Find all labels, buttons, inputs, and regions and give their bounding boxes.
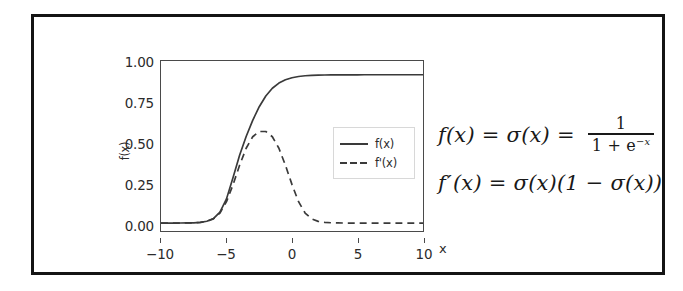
x-axis-ticks: −10 −5 0 5 10 [74,238,404,272]
equation-1-lhs: f(x) [438,123,475,147]
equation-1-equals-first: = [475,123,507,147]
equation-2-lhs-argument: (x) [453,171,482,195]
y-tick-label-0-75: 0.75 [108,97,154,111]
equation-1-denominator-exponent: −x [636,136,650,147]
plot-axes-frame: f(x) f'(x) [160,60,424,232]
equation-1-denominator-base: 1 + e [592,136,636,155]
equation-1-denominator: 1 + e−x [588,135,655,156]
equation-1-fraction: 1 1 + e−x [588,116,655,155]
equation-sigmoid-derivative: f ′ (x) = σ(x)(1 − σ(x)) [438,162,683,204]
equations-block: f(x) = σ(x) = 1 1 + e−x f ′ (x) = σ(x)(1… [438,112,683,204]
x-tick-label-10: 10 [416,248,433,262]
plot-legend: f(x) f'(x) [333,127,415,179]
equation-2-rhs: σ(x)(1 − σ(x)) [514,171,663,195]
x-tick-mark-neg5 [226,238,227,243]
legend-label-fx: f(x) [375,137,394,151]
legend-line-sample-solid [339,139,369,149]
equation-1-sigma: σ(x) [507,123,550,147]
y-tick-label-1-00: 1.00 [108,56,154,70]
x-tick-label-5: 5 [354,248,362,262]
figure-container: f(x) 1.00 0.75 0.50 0.25 0.00 [0,0,683,291]
legend-entry-fprime: f'(x) [339,153,409,172]
x-tick-mark-0 [292,238,293,243]
legend-label-fprime: f'(x) [375,156,397,170]
sigmoid-plot: f(x) 1.00 0.75 0.50 0.25 0.00 [74,32,404,267]
equation-1-numerator: 1 [610,116,632,133]
x-axis-label: x [439,241,447,256]
x-tick-mark-neg10 [160,238,161,243]
equation-sigmoid-definition: f(x) = σ(x) = 1 1 + e−x [438,112,683,158]
legend-line-sample-dashed [339,158,369,168]
equation-1-equals-second: = [550,123,582,147]
legend-entry-fx: f(x) [339,134,409,153]
y-tick-label-0-25: 0.25 [108,179,154,193]
equation-2-lhs-f: f [438,171,446,195]
equation-2-equals: = [482,171,514,195]
x-tick-label-0: 0 [288,248,296,262]
y-axis-ticks: 1.00 0.75 0.50 0.25 0.00 [104,32,154,267]
y-tick-label-0-50: 0.50 [108,138,154,152]
outer-border-frame: f(x) 1.00 0.75 0.50 0.25 0.00 [31,14,665,275]
y-tick-label-0-00: 0.00 [108,220,154,234]
x-tick-label-neg10: −10 [146,248,174,262]
equation-2-prime-symbol: ′ [446,171,453,195]
x-tick-mark-5 [358,238,359,243]
x-tick-label-neg5: −5 [216,248,236,262]
x-tick-mark-10 [424,238,425,243]
